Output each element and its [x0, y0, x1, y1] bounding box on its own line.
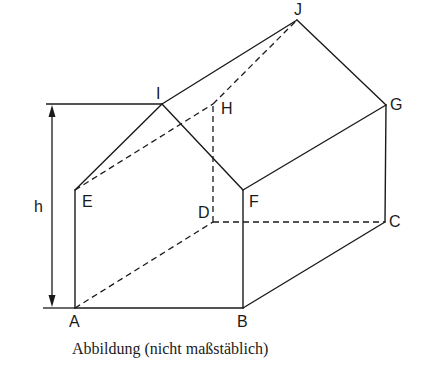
dimension-label-h: h [34, 199, 43, 215]
figure-caption: Abbildung (nicht maßstäblich) [72, 340, 268, 358]
edge-fg [243, 105, 386, 190]
vertex-label-c: C [389, 214, 401, 230]
vertex-label-b: B [237, 314, 248, 330]
edge-eh-hidden [75, 104, 213, 190]
vertex-label-d: D [198, 205, 210, 221]
vertex-label-a: A [69, 314, 80, 330]
vertex-label-h: H [221, 101, 233, 117]
arrowhead-down-icon [49, 295, 56, 307]
house-prism-diagram [0, 0, 422, 370]
vertex-label-i: I [156, 86, 160, 102]
vertex-label-j: J [294, 2, 302, 18]
edge-bc [243, 222, 385, 308]
vertex-label-e: E [82, 194, 93, 210]
vertex-label-g: G [390, 97, 402, 113]
edge-ie [75, 104, 162, 190]
edge-hj-hidden [213, 20, 297, 104]
edge-cg [385, 105, 386, 222]
edge-ad-hidden [75, 222, 213, 308]
arrowhead-up-icon [49, 105, 56, 117]
edge-ji [162, 20, 297, 104]
edge-gj [297, 20, 386, 105]
vertex-label-f: F [249, 194, 259, 210]
